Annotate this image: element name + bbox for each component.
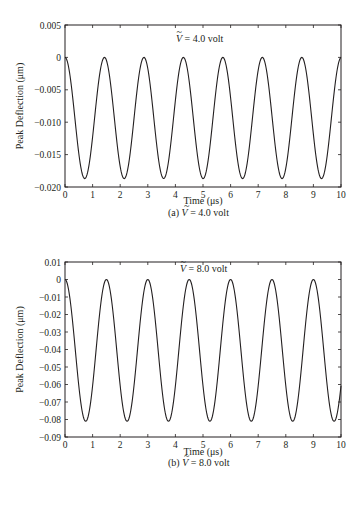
x-tick-label: 3 bbox=[145, 440, 150, 450]
y-tick-label: −0.010 bbox=[34, 118, 61, 128]
tilde-mark: ~ bbox=[177, 26, 183, 37]
figure: 0123456789100.0050−0.005−0.010−0.015−0.0… bbox=[0, 0, 358, 512]
y-tick-label: −0.03 bbox=[39, 328, 61, 338]
y-tick-label: −0.02 bbox=[39, 310, 61, 320]
y-tick-label: 0.005 bbox=[40, 21, 62, 31]
y-tick-label: −0.01 bbox=[39, 293, 61, 303]
x-tick-label: 9 bbox=[311, 440, 316, 450]
x-tick-label: 7 bbox=[256, 190, 261, 200]
x-tick-label: 10 bbox=[336, 190, 346, 200]
data-line bbox=[65, 57, 341, 178]
y-tick-label: −0.08 bbox=[39, 415, 61, 425]
x-tick-label: 6 bbox=[228, 190, 233, 200]
data-line bbox=[65, 280, 341, 422]
figure-caption: (a) V = 4.0 volt bbox=[168, 207, 229, 219]
y-tick-label: 0 bbox=[56, 275, 61, 285]
caption-tilde-mark: ~ bbox=[184, 200, 190, 211]
x-tick-label: 8 bbox=[283, 190, 288, 200]
y-tick-label: −0.005 bbox=[34, 85, 61, 95]
x-tick-label: 2 bbox=[118, 190, 123, 200]
x-tick-label: 1 bbox=[90, 440, 95, 450]
x-tick-label: 2 bbox=[118, 440, 123, 450]
y-tick-label: −0.015 bbox=[34, 150, 61, 160]
x-tick-label: 7 bbox=[256, 440, 261, 450]
x-tick-label: 4 bbox=[173, 440, 178, 450]
plot-frame bbox=[65, 262, 341, 437]
y-tick-label: −0.07 bbox=[39, 398, 61, 408]
plot-frame bbox=[65, 25, 341, 187]
x-tick-label: 6 bbox=[228, 440, 233, 450]
chart-panel-b: 0123456789100.010−0.01−0.02−0.03−0.04−0.… bbox=[14, 256, 346, 469]
x-tick-label: 0 bbox=[63, 440, 68, 450]
y-axis-label: Peak Deflection (μm) bbox=[14, 63, 26, 149]
x-tick-label: 10 bbox=[336, 440, 346, 450]
x-tick-label: 9 bbox=[311, 190, 316, 200]
voltage-annotation: V = 4.0 volt bbox=[176, 33, 224, 44]
y-tick-label: −0.020 bbox=[34, 183, 61, 193]
y-tick-label: −0.09 bbox=[39, 433, 61, 443]
x-tick-label: 0 bbox=[63, 190, 68, 200]
x-tick-label: 4 bbox=[173, 190, 178, 200]
y-tick-label: −0.06 bbox=[39, 380, 61, 390]
y-tick-label: −0.05 bbox=[39, 363, 61, 373]
y-tick-label: 0 bbox=[56, 53, 61, 63]
y-axis-label: Peak Deflection (μm) bbox=[14, 306, 26, 392]
y-tick-label: 0.01 bbox=[44, 258, 61, 268]
voltage-annotation: V = 8.0 volt bbox=[180, 263, 228, 274]
tilde-mark: ~ bbox=[181, 256, 187, 267]
figure-caption: (b) V = 8.0 volt bbox=[168, 457, 230, 469]
caption-tilde-mark: ~ bbox=[184, 450, 190, 461]
chart-panel-a: 0123456789100.0050−0.005−0.010−0.015−0.0… bbox=[14, 21, 346, 220]
x-tick-label: 8 bbox=[283, 440, 288, 450]
y-tick-label: −0.04 bbox=[39, 345, 61, 355]
x-tick-label: 1 bbox=[90, 190, 95, 200]
x-tick-label: 3 bbox=[145, 190, 150, 200]
